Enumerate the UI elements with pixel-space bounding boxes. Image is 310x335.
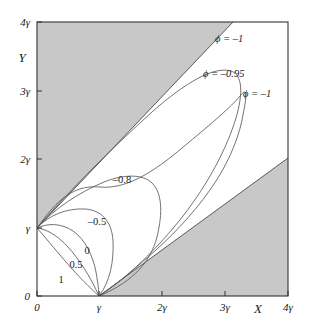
plot-svg: 0 γ 2γ 3γ 4γ 0 γ 2γ 3γ 4γ X Y ϕ = –1 ϕ =… [0, 0, 310, 335]
y-tick-label-4: 4γ [20, 16, 31, 28]
contour-label-0.5: 0.5 [69, 259, 82, 270]
y-tick-label-2: 2γ [20, 153, 31, 165]
x-tick-label-2: 2γ [157, 301, 168, 313]
x-tick-label-0: 0 [34, 301, 40, 313]
phi-label-top: ϕ = –1 [215, 33, 243, 44]
x-tick-label-4: 4γ [283, 301, 294, 313]
x-tick-label-3: 3γ [219, 301, 231, 313]
y-tick-label-3: 3γ [19, 85, 31, 97]
contour-label-minus-0.8: –0.8 [112, 174, 131, 185]
y-axis-label: Y [18, 50, 27, 65]
contour-plot-figure: 0 γ 2γ 3γ 4γ 0 γ 2γ 3γ 4γ X Y ϕ = –1 ϕ =… [0, 0, 310, 335]
contour-label-1: 1 [58, 274, 63, 285]
contour-label-0: 0 [84, 245, 89, 256]
phi-label-mid: ϕ = –0.95 [203, 68, 244, 79]
x-tick-label-1: γ [97, 301, 102, 313]
y-tick-label-0: 0 [25, 290, 31, 302]
y-tick-label-1: γ [26, 222, 31, 234]
phi-label-right: ϕ = –1 [243, 88, 271, 99]
contour-label-minus-0.5: –0.5 [87, 216, 106, 227]
x-axis-label: X [253, 301, 263, 316]
